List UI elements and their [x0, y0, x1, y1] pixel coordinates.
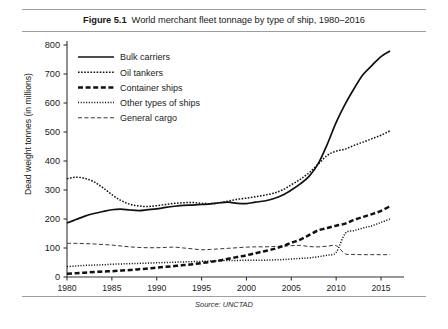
- legend-label: Oil tankers: [120, 68, 164, 78]
- x-tick-label: 1990: [147, 283, 166, 293]
- y-tick-label: 700: [45, 69, 60, 79]
- y-tick-label: 400: [45, 156, 60, 166]
- legend-label: Container ships: [120, 83, 183, 93]
- y-tick-label: 0: [55, 272, 60, 282]
- x-tick-label: 1995: [192, 283, 211, 293]
- plot-area: Dead weight tonnes (in millions) 0100200…: [0, 33, 448, 295]
- figure-container: Figure 5.1 World merchant fleet tonnage …: [0, 0, 448, 329]
- y-tick-label: 100: [45, 243, 60, 253]
- x-tick-label: 2000: [237, 283, 256, 293]
- figure-title-text: World merchant fleet tonnage by type of …: [132, 15, 365, 25]
- x-tick-label: 1985: [102, 283, 121, 293]
- top-divider: [22, 9, 426, 10]
- y-tick-label: 800: [45, 40, 60, 50]
- x-tick-label: 2005: [282, 283, 301, 293]
- figure-number: Figure 5.1: [83, 15, 126, 25]
- legend-label: Bulk carriers: [120, 52, 171, 62]
- figure-title: Figure 5.1 World merchant fleet tonnage …: [22, 13, 426, 28]
- bottom-divider: [22, 296, 426, 297]
- x-tick-label: 2010: [327, 283, 346, 293]
- legend-label: Other types of ships: [120, 98, 201, 108]
- x-tick-label: 2015: [371, 283, 390, 293]
- line-chart: 0100200300400500600700800198019851990199…: [0, 33, 448, 295]
- series-line: [67, 131, 390, 207]
- y-tick-label: 600: [45, 98, 60, 108]
- y-tick-label: 200: [45, 214, 60, 224]
- legend-label: General cargo: [120, 113, 177, 123]
- y-axis-label: Dead weight tonnes (in millions): [23, 44, 33, 224]
- source-note: Source: UNCTAD: [22, 300, 426, 309]
- y-tick-label: 300: [45, 185, 60, 195]
- x-tick-label: 1980: [57, 283, 76, 293]
- y-tick-label: 500: [45, 127, 60, 137]
- title-divider: [22, 31, 426, 32]
- series-line: [67, 243, 390, 254]
